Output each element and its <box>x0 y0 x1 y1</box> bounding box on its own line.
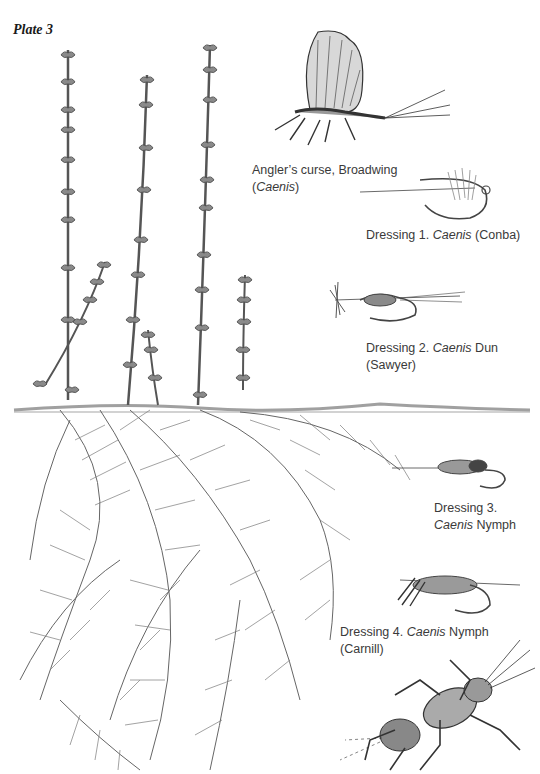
submerged-fronds <box>20 410 410 770</box>
species-name: Caenis <box>433 228 472 242</box>
water-surface <box>14 404 530 412</box>
species-name: Caenis <box>433 341 472 355</box>
fly-dressing-4 <box>398 576 520 613</box>
caption-dressing-1: Dressing 1. Caenis (Conba) <box>366 227 520 244</box>
species-name: Caenis <box>256 180 295 194</box>
water-weed-plant <box>33 45 252 405</box>
fly-dressing-3 <box>392 460 505 488</box>
caption-adult: Angler’s curse, Broadwing (Caenis) <box>252 162 397 196</box>
species-name: Caenis <box>434 518 473 532</box>
caenis-adult <box>275 31 450 145</box>
caption-adult-line2: (Caenis) <box>252 179 397 196</box>
species-name: Caenis <box>407 625 446 639</box>
fly-dressing-2 <box>330 282 465 321</box>
caption-dressing-3: Dressing 3. Caenis Nymph <box>434 500 516 534</box>
caption-dressing-2: Dressing 2. Caenis Dun (Sawyer) <box>366 340 540 374</box>
caenis-nymph <box>340 640 535 770</box>
caption-adult-line1: Angler’s curse, Broadwing <box>252 162 397 179</box>
caption-dressing-4: Dressing 4. Caenis Nymph (Carnill) <box>340 624 489 658</box>
